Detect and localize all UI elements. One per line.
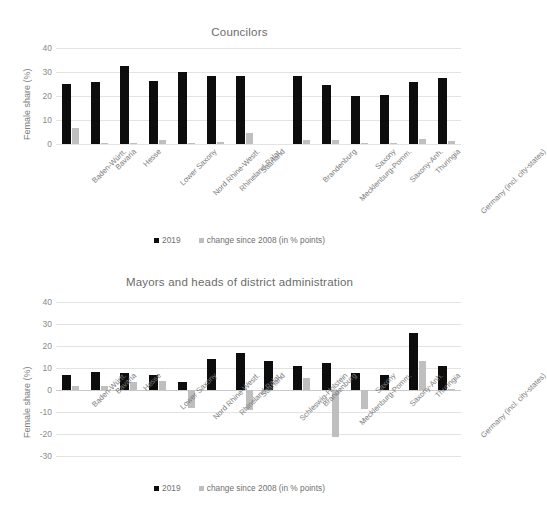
legend-label-change: change since 2008 (in % points) (207, 235, 325, 245)
bar[interactable] (91, 82, 100, 144)
y-axis-tick: 0 (47, 139, 52, 149)
chart-mayors: Mayors and heads of district administrat… (0, 258, 479, 509)
y-axis-tick: 30 (43, 319, 52, 329)
bar-slot[interactable] (287, 302, 316, 456)
y-axis-tick: 10 (43, 363, 52, 373)
y-axis-tick: 40 (43, 43, 52, 53)
bar[interactable] (101, 143, 108, 144)
bar-slot[interactable] (403, 48, 432, 144)
bar-slot[interactable] (85, 302, 114, 456)
bar-slot[interactable] (287, 48, 316, 144)
bar[interactable] (293, 366, 302, 390)
legend-entry-2019: 2019 (154, 482, 180, 493)
y-axis-tick: 20 (43, 341, 52, 351)
bar[interactable] (361, 390, 368, 409)
legend-entry-change: change since 2008 (in % points) (199, 482, 325, 493)
bar[interactable] (120, 66, 129, 144)
legend-swatch-2019-icon (154, 486, 159, 491)
bar-slot[interactable] (345, 48, 374, 144)
bar[interactable] (217, 142, 224, 144)
bar-slot[interactable] (172, 48, 201, 144)
bar[interactable] (62, 84, 71, 144)
legend-label-change: change since 2008 (in % points) (207, 483, 325, 493)
chart-title-mayors: Mayors and heads of district administrat… (0, 276, 479, 288)
y-axis-tick: 40 (43, 297, 52, 307)
chart-councilors: Councilors Female share (%) 010203040 Ba… (0, 0, 479, 255)
bar[interactable] (149, 81, 158, 144)
bar[interactable] (72, 128, 79, 144)
bar[interactable] (303, 378, 310, 390)
bar[interactable] (188, 143, 195, 144)
legend-mayors: 2019 change since 2008 (in % points) (0, 482, 479, 493)
gridline (56, 456, 461, 457)
y-axis-tick: -20 (40, 429, 52, 439)
bar-slot[interactable] (56, 48, 85, 144)
legend-label-2019: 2019 (162, 483, 180, 493)
bar[interactable] (409, 333, 418, 390)
y-axis-tick: 20 (43, 91, 52, 101)
bar[interactable] (409, 82, 418, 144)
legend-swatch-2019-icon (154, 238, 159, 243)
bar[interactable] (438, 78, 447, 144)
legend-entry-2019: 2019 (154, 234, 180, 245)
bar[interactable] (207, 76, 216, 144)
bar[interactable] (361, 143, 368, 144)
bar[interactable] (178, 72, 187, 144)
bar-slot[interactable] (172, 302, 201, 456)
bar-slot[interactable] (432, 48, 461, 144)
bar-slot[interactable] (374, 48, 403, 144)
x-axis-tick-label: Brandenburg (321, 147, 358, 184)
gridline (56, 144, 461, 145)
plot-area-mayors: -30-20-10010203040 Baden-Württ.BavariaHe… (56, 302, 461, 456)
bar[interactable] (72, 386, 79, 390)
legend-label-2019: 2019 (162, 235, 180, 245)
legend-swatch-change-icon (199, 238, 204, 243)
bar[interactable] (380, 95, 389, 144)
x-axis-tick-label: Germany (incl. city-states) (479, 371, 547, 440)
legend-swatch-change-icon (199, 486, 204, 491)
bar-slot[interactable] (259, 48, 288, 144)
bar[interactable] (332, 140, 339, 144)
y-axis-label-councilors: Female share (%) (22, 68, 32, 140)
y-axis-tick: -10 (40, 407, 52, 417)
x-axis-tick-label: Lower Saxony (178, 147, 218, 187)
chart-title-councilors: Councilors (0, 26, 479, 38)
bar[interactable] (91, 372, 100, 390)
x-axis-tick-label: Hesse (141, 147, 163, 169)
plot-area-councilors: 010203040 Baden-Württ.BavariaHesseLower … (56, 48, 461, 144)
bar-group-councilors (56, 48, 461, 144)
y-axis-label-mayors: Female share (%) (22, 366, 32, 438)
legend-entry-change: change since 2008 (in % points) (199, 234, 325, 245)
bar[interactable] (293, 76, 302, 144)
bar[interactable] (303, 140, 310, 144)
bar-slot[interactable] (114, 48, 143, 144)
y-axis-tick: -30 (40, 451, 52, 461)
bar[interactable] (419, 139, 426, 144)
bar-slot[interactable] (56, 302, 85, 456)
y-axis-tick: 30 (43, 67, 52, 77)
bar[interactable] (130, 143, 137, 144)
bar[interactable] (178, 382, 187, 390)
legend-councilors: 2019 change since 2008 (in % points) (0, 234, 479, 245)
bar-slot[interactable] (201, 48, 230, 144)
bar[interactable] (236, 76, 245, 144)
x-axis-tick-label: Germany (incl. city-states) (479, 147, 547, 216)
y-axis-tick: 10 (43, 115, 52, 125)
y-axis-tick: 0 (47, 385, 52, 395)
bar-slot[interactable] (85, 48, 114, 144)
bar[interactable] (322, 85, 331, 144)
bar[interactable] (448, 141, 455, 144)
bar-slot[interactable] (143, 48, 172, 144)
bar[interactable] (159, 140, 166, 144)
bar[interactable] (246, 133, 253, 144)
bar[interactable] (351, 96, 360, 144)
bar-slot[interactable] (230, 48, 259, 144)
bar-slot[interactable] (316, 48, 345, 144)
bar[interactable] (390, 143, 397, 144)
bar[interactable] (62, 375, 71, 390)
bar[interactable] (159, 381, 166, 390)
